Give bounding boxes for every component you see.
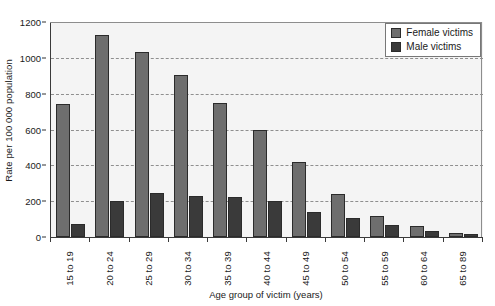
female-swatch-icon: [391, 28, 401, 38]
y-axis-title-text: Rate per 100 000 population: [3, 59, 14, 182]
x-tick-mark: [129, 238, 130, 242]
bar-female: [370, 216, 384, 237]
x-tick-label: 30 to 34: [180, 244, 194, 292]
x-tick-label-text: 50 to 54: [339, 251, 350, 285]
y-tick-label: 0: [36, 232, 41, 243]
bar-male: [464, 234, 478, 237]
bar-female: [331, 194, 345, 237]
x-tick-mark: [443, 238, 444, 242]
x-tick-label: 45 to 49: [298, 244, 312, 292]
x-tick-label: 15 to 19: [63, 244, 77, 292]
bar-male: [110, 201, 124, 237]
x-tick-label-text: 20 to 24: [103, 251, 114, 285]
x-tick-label-text: 65 to 89: [457, 251, 468, 285]
y-axis-tick-labels: 020040060080010001200: [16, 22, 46, 237]
x-tick-label-text: 15 to 19: [64, 251, 75, 285]
y-tick-label: 1200: [20, 17, 41, 28]
y-tick-mark: [42, 165, 46, 166]
x-tick-label: 20 to 24: [102, 244, 116, 292]
x-tick-label-text: 60 to 64: [418, 251, 429, 285]
bar-male: [228, 197, 242, 237]
x-tick-label: 65 to 89: [455, 244, 469, 292]
x-tick-mark: [168, 238, 169, 242]
x-tick-label: 50 to 54: [338, 244, 352, 292]
bar-male: [189, 196, 203, 237]
y-tick-mark: [42, 57, 46, 58]
bar-male: [150, 193, 164, 237]
legend-item-female: Female victims: [391, 27, 473, 38]
legend-label-female: Female victims: [406, 27, 473, 38]
y-tick-label: 600: [25, 124, 41, 135]
x-tick-mark: [286, 238, 287, 242]
y-tick-label: 800: [25, 88, 41, 99]
bar-male: [268, 201, 282, 237]
y-tick-label: 200: [25, 196, 41, 207]
x-tick-mark: [246, 238, 247, 242]
bar-female: [292, 162, 306, 237]
bar-female: [95, 35, 109, 237]
y-tick-mark: [42, 22, 46, 23]
bar-male: [425, 231, 439, 237]
bar-female: [449, 233, 463, 237]
bar-female: [174, 75, 188, 237]
bar-female: [213, 103, 227, 237]
bar-chart-figure: Rate per 100 000 population 020040060080…: [0, 0, 495, 306]
bar-male: [307, 212, 321, 237]
x-tick-label: 55 to 59: [377, 244, 391, 292]
x-tick-label: 40 to 44: [259, 244, 273, 292]
bar-female: [56, 104, 70, 237]
x-tick-mark: [89, 238, 90, 242]
y-tick-label: 400: [25, 160, 41, 171]
y-tick-label: 1000: [20, 52, 41, 63]
bar-female: [135, 52, 149, 237]
x-tick-mark: [50, 238, 51, 242]
y-tick-mark: [42, 93, 46, 94]
male-swatch-icon: [391, 42, 401, 52]
bar-male: [346, 218, 360, 237]
x-tick-label: 25 to 29: [141, 244, 155, 292]
bar-female: [253, 130, 267, 238]
x-tick-mark: [207, 238, 208, 242]
bar-male: [385, 225, 399, 237]
y-axis-title: Rate per 100 000 population: [0, 0, 16, 240]
legend-label-male: Male victims: [406, 41, 461, 52]
x-tick-mark: [482, 238, 483, 242]
x-tick-label-text: 40 to 44: [261, 251, 272, 285]
x-tick-label-text: 45 to 49: [300, 251, 311, 285]
chart-legend: Female victims Male victims: [385, 23, 481, 57]
x-tick-label-text: 30 to 34: [182, 251, 193, 285]
legend-item-male: Male victims: [391, 41, 473, 52]
x-tick-label-text: 35 to 39: [221, 251, 232, 285]
y-tick-mark: [42, 237, 46, 238]
bar-male: [71, 224, 85, 237]
x-axis-title: Age group of victim (years): [50, 289, 482, 300]
x-tick-mark: [325, 238, 326, 242]
bar-female: [410, 226, 424, 237]
x-tick-label: 35 to 39: [220, 244, 234, 292]
x-tick-label-text: 25 to 29: [143, 251, 154, 285]
y-tick-mark: [42, 201, 46, 202]
x-tick-mark: [403, 238, 404, 242]
x-tick-label: 60 to 64: [416, 244, 430, 292]
y-tick-mark: [42, 129, 46, 130]
x-tick-mark: [364, 238, 365, 242]
x-tick-label-text: 55 to 59: [378, 251, 389, 285]
